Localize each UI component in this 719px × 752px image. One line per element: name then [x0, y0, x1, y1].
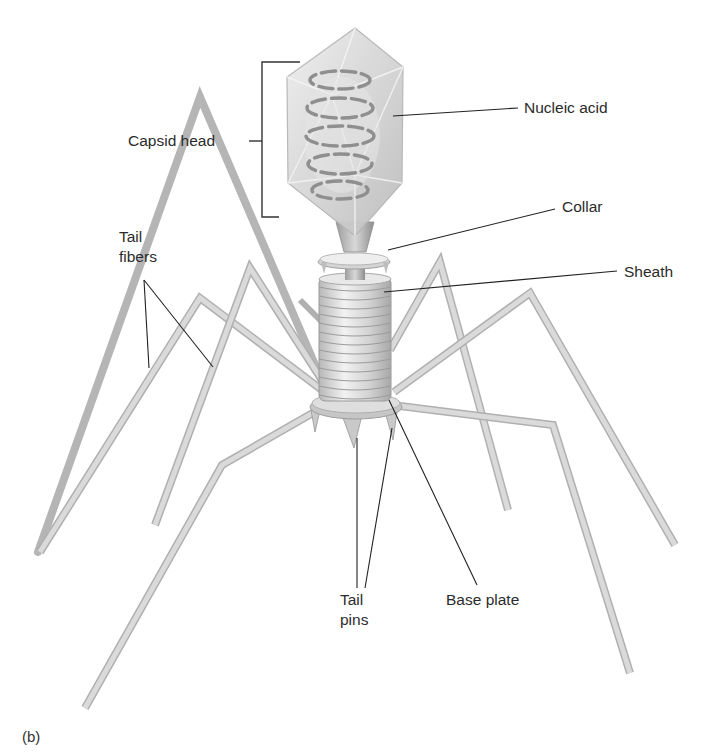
label-base-plate: Base plate [446, 590, 519, 610]
leader-tail-fibers-a [144, 280, 149, 368]
label-nucleic-acid: Nucleic acid [524, 98, 608, 118]
label-tail-fibers: Tail fibers [119, 227, 157, 267]
tail-fiber-right-front [392, 405, 630, 673]
label-tail-pins-line2: pins [340, 610, 368, 630]
leader-tail-pins-b [365, 428, 392, 588]
label-collar: Collar [562, 197, 602, 217]
leader-collar [388, 209, 555, 250]
label-tail-pins: Tail pins [340, 590, 368, 630]
leader-sheath [384, 271, 617, 292]
tail-fiber-left-front [85, 410, 318, 708]
phage-diagram: Capsid head Nucleic acid Collar Sheath T… [0, 0, 719, 752]
tail-fiber-left-inner [155, 268, 325, 525]
phage-illustration [0, 0, 719, 752]
label-capsid-head: Capsid head [128, 131, 215, 151]
label-tail-fibers-line1: Tail [119, 227, 157, 247]
leader-nucleic-acid [393, 108, 518, 116]
sheath [319, 268, 391, 401]
label-tail-pins-line1: Tail [340, 590, 368, 610]
capsid-head [287, 28, 403, 236]
leader-base-plate [389, 400, 477, 585]
leader-tail-fibers-b [144, 280, 213, 367]
label-sheath: Sheath [624, 262, 673, 282]
panel-label: (b) [22, 728, 40, 745]
label-tail-fibers-line2: fibers [119, 247, 157, 267]
